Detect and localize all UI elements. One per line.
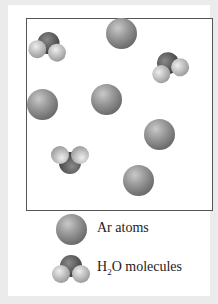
water-molecule-icon bbox=[51, 144, 89, 176]
argon-atom-icon bbox=[106, 18, 137, 49]
argon-atom-icon bbox=[27, 89, 58, 120]
argon-atom-icon bbox=[144, 119, 175, 150]
legend-argon-atom-icon bbox=[56, 214, 87, 245]
legend-water-molecule-icon bbox=[52, 253, 90, 285]
argon-atom-icon bbox=[123, 165, 154, 196]
water-molecule-icon bbox=[27, 27, 70, 65]
legend-water-label: H2O molecules bbox=[97, 259, 182, 277]
argon-atom-icon bbox=[91, 84, 122, 115]
legend-water-label-h: H bbox=[97, 259, 107, 274]
legend-argon-label: Ar atoms bbox=[97, 220, 149, 236]
legend-water-label-rest: O molecules bbox=[112, 259, 182, 274]
